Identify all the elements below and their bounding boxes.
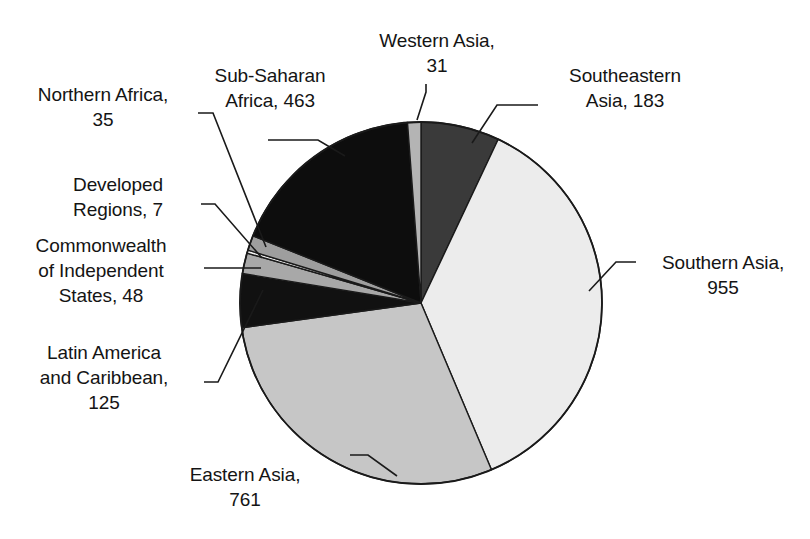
slice-label-southeastern-asia: Southeastern Asia, 183 [540, 63, 710, 113]
slice-label-developed-regions: Developed Regions, 7 [38, 172, 198, 222]
slice-label-sub-saharan-africa: Sub-Saharan Africa, 463 [180, 63, 360, 113]
pie-slice-group [240, 122, 602, 484]
pie-chart-figure: Western Asia, 31 Sub-Saharan Africa, 463… [0, 0, 810, 539]
slice-label-northern-africa: Northern Africa, 35 [8, 82, 198, 132]
slice-label-eastern-asia: Eastern Asia, 761 [150, 462, 340, 512]
leader-line-western-asia [417, 84, 426, 120]
slice-label-latin-america-and-caribbean: Latin America and Caribbean, 125 [10, 340, 198, 415]
slice-label-commonwealth-of-independent-states: Commonwealth of Independent States, 48 [4, 233, 198, 308]
slice-label-western-asia: Western Asia, 31 [352, 28, 522, 78]
slice-label-southern-asia: Southern Asia, 955 [638, 250, 808, 300]
